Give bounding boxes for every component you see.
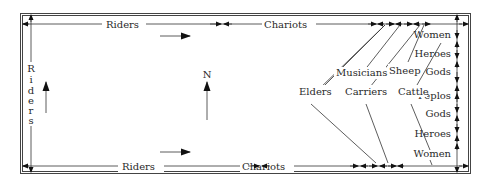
procession-diagram: Riders Chariots Riders Chariots (0, 0, 491, 185)
label-carriers: Carriers (345, 86, 387, 97)
label-gods-south: Gods (425, 108, 451, 119)
top-label-riders: Riders (106, 19, 139, 30)
label-women-south: Women (414, 148, 452, 159)
label-gods-north: Gods (425, 66, 451, 77)
label-women-north: Women (414, 29, 452, 40)
svg-text:R: R (27, 63, 35, 74)
svg-text:s: s (28, 115, 33, 126)
bottom-label-riders: Riders (122, 161, 155, 172)
direction-arrows (46, 36, 207, 152)
label-heroes-south: Heroes (415, 128, 452, 139)
inner-labels: Musicians Sheep Elders Carriers Cattle (299, 65, 429, 97)
svg-text:i: i (29, 74, 32, 85)
label-sheep: Sheep (389, 65, 421, 76)
compass-north-label: N (203, 69, 212, 80)
bottom-label-chariots: Chariots (242, 161, 285, 172)
label-musicians: Musicians (336, 67, 387, 78)
label-elders: Elders (299, 86, 332, 97)
top-label-chariots: Chariots (264, 19, 307, 30)
label-cattle: Cattle (398, 86, 429, 97)
